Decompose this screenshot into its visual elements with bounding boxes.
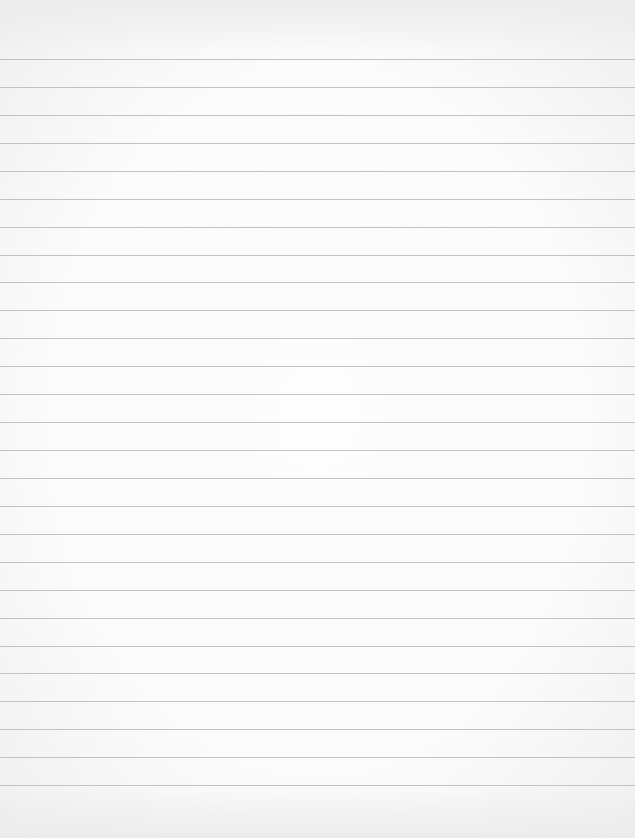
ruled-line [0,310,635,311]
ruled-line [0,422,635,423]
ruled-line [0,673,635,674]
ruled-line [0,227,635,228]
ruled-line [0,450,635,451]
ruled-line [0,59,635,60]
ruled-line [0,87,635,88]
ruled-line [0,590,635,591]
ruled-line [0,282,635,283]
ruled-line [0,338,635,339]
ruled-line [0,255,635,256]
ruled-line [0,701,635,702]
ruled-line [0,534,635,535]
ruled-line [0,646,635,647]
ruled-line [0,199,635,200]
ruled-line [0,394,635,395]
ruled-line [0,115,635,116]
ruled-line [0,785,635,786]
lined-paper [0,0,635,838]
ruled-line [0,366,635,367]
ruled-line [0,506,635,507]
ruled-line [0,478,635,479]
ruled-line [0,757,635,758]
ruled-line [0,729,635,730]
ruled-line [0,618,635,619]
ruled-line [0,171,635,172]
ruled-line [0,143,635,144]
ruled-line [0,562,635,563]
